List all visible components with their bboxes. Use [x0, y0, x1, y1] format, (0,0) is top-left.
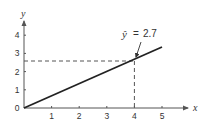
- x-tick-5: 5: [160, 111, 165, 121]
- y-tick-2: 2: [15, 67, 20, 77]
- regression-line: [24, 47, 162, 108]
- annotation-value: 2.7: [143, 28, 157, 39]
- x-tick-4: 4: [132, 111, 137, 121]
- y-tick-3: 3: [15, 48, 20, 58]
- chart: 1 2 3 4 5 0 1 2 3 4 x y ŷ = 2.7: [0, 0, 207, 122]
- x-tick-labels: 1 2 3 4 5: [49, 111, 164, 121]
- x-tick-3: 3: [104, 111, 109, 121]
- y-tick-4: 4: [15, 30, 20, 40]
- annotation-yhat: ŷ = 2.7: [121, 28, 157, 57]
- y-tick-labels: 0 1 2 3 4: [15, 30, 20, 113]
- annotation-equals: =: [133, 28, 139, 39]
- y-tick-0: 0: [15, 103, 20, 113]
- annotation-symbol: ŷ: [121, 28, 127, 40]
- x-tick-1: 1: [49, 111, 54, 121]
- x-tick-2: 2: [77, 111, 82, 121]
- x-axis-label: x: [192, 102, 198, 113]
- annotation-arrow: [136, 42, 141, 57]
- y-axis-label: y: [20, 8, 26, 19]
- y-tick-1: 1: [15, 85, 20, 95]
